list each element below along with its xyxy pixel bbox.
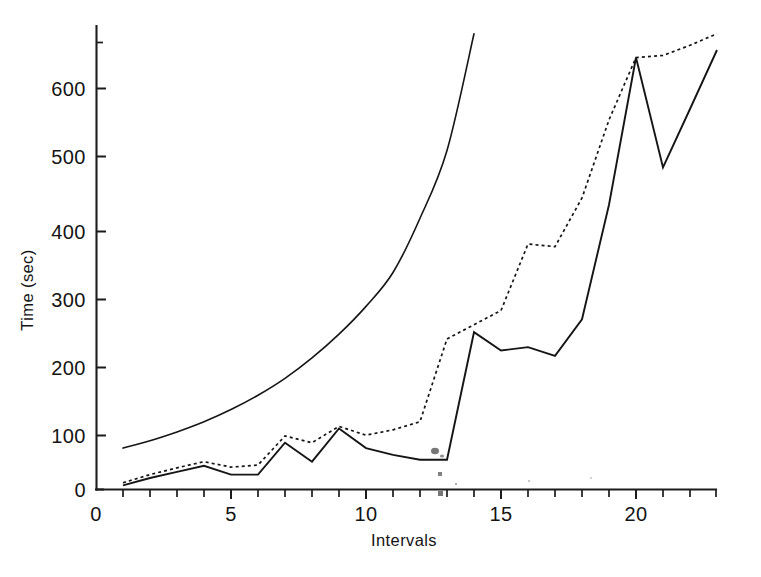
x-tick-label-10: 10 bbox=[354, 503, 377, 525]
y-tick-label-500: 500 bbox=[51, 146, 86, 168]
y-tick-label-300: 300 bbox=[51, 289, 86, 311]
y-axis-title: Time (sec) bbox=[18, 249, 36, 330]
series-group bbox=[123, 34, 717, 486]
chart-svg: 0 100 200 300 400 500 600 bbox=[0, 0, 761, 577]
y-axis-tick-labels: 0 100 200 300 400 500 600 bbox=[51, 78, 86, 501]
x-tick-label-0: 0 bbox=[90, 503, 102, 525]
y-tick-label-600: 600 bbox=[51, 78, 86, 100]
x-tick-label-5: 5 bbox=[225, 503, 237, 525]
x-axis-tick-labels: 0 5 10 15 20 bbox=[90, 503, 647, 525]
y-tick-label-100: 100 bbox=[51, 425, 86, 447]
y-tick-label-400: 400 bbox=[51, 221, 86, 243]
y-tick-label-200: 200 bbox=[51, 357, 86, 379]
x-tick-label-20: 20 bbox=[624, 503, 647, 525]
x-axis-ticks bbox=[123, 490, 716, 500]
axes-group bbox=[96, 26, 716, 490]
x-tick-label-15: 15 bbox=[489, 503, 512, 525]
chart-figure: 0 100 200 300 400 500 600 bbox=[0, 0, 761, 577]
x-axis-title: Intervals bbox=[371, 531, 437, 549]
series-upper-curve-render bbox=[123, 34, 474, 448]
figure-caption-strip bbox=[0, 561, 761, 577]
y-tick-label-0: 0 bbox=[74, 479, 86, 501]
series-lower-solid-curve bbox=[123, 50, 717, 485]
